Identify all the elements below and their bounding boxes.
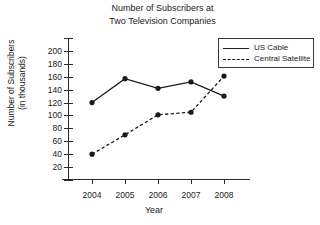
y-tick-label: 120 xyxy=(48,98,62,107)
series-layer xyxy=(68,38,240,180)
data-point xyxy=(89,152,94,157)
chart-title: Number of Subscribers at Two Television … xyxy=(60,2,265,28)
y-tick-label: 100 xyxy=(48,111,62,120)
plot-area: 20406080100120140160180200 2004200520062… xyxy=(68,38,240,180)
y-tick-unlabeled xyxy=(64,180,73,181)
data-point xyxy=(221,93,226,98)
data-point xyxy=(155,112,160,117)
y-axis-label-line-2: (in thousands) xyxy=(17,18,28,148)
x-tick-label: 2006 xyxy=(149,191,168,200)
data-point xyxy=(221,73,226,78)
legend-item[interactable]: US Cable xyxy=(223,42,309,53)
y-tick-label: 60 xyxy=(53,137,62,146)
x-tick-label: 2008 xyxy=(215,191,234,200)
y-tick-label: 200 xyxy=(48,46,62,55)
chart-figure: Number of Subscribers at Two Television … xyxy=(0,0,320,225)
y-tick-label: 160 xyxy=(48,72,62,81)
y-tick-label: 40 xyxy=(53,150,62,159)
legend-item[interactable]: Central Satellite xyxy=(223,53,309,64)
y-tick-label: 80 xyxy=(53,124,62,133)
x-tick-label: 2004 xyxy=(83,191,102,200)
legend-item-label: Central Satellite xyxy=(254,54,310,63)
legend-dashed-line-icon xyxy=(223,54,249,63)
y-axis-label: Number of Subscribers (in thousands) xyxy=(6,18,36,148)
y-axis-label-line-1: Number of Subscribers xyxy=(6,18,17,148)
x-tick-label: 2007 xyxy=(182,191,201,200)
legend-item-label: US Cable xyxy=(254,43,288,52)
y-tick-label: 20 xyxy=(53,163,62,172)
data-point xyxy=(89,100,94,105)
x-tick-label: 2005 xyxy=(116,191,135,200)
chart-title-line-2: Two Television Companies xyxy=(60,15,265,28)
x-axis-label: Year xyxy=(68,205,240,215)
data-point xyxy=(188,110,193,115)
data-point xyxy=(122,76,127,81)
chart-title-line-1: Number of Subscribers at xyxy=(60,2,265,15)
data-point xyxy=(155,86,160,91)
y-tick-label: 140 xyxy=(48,85,62,94)
data-point xyxy=(122,132,127,137)
data-point xyxy=(188,79,193,84)
legend-solid-line-icon xyxy=(223,43,249,52)
chart-legend: US CableCentral Satellite xyxy=(218,38,314,68)
y-tick-label: 180 xyxy=(48,59,62,68)
